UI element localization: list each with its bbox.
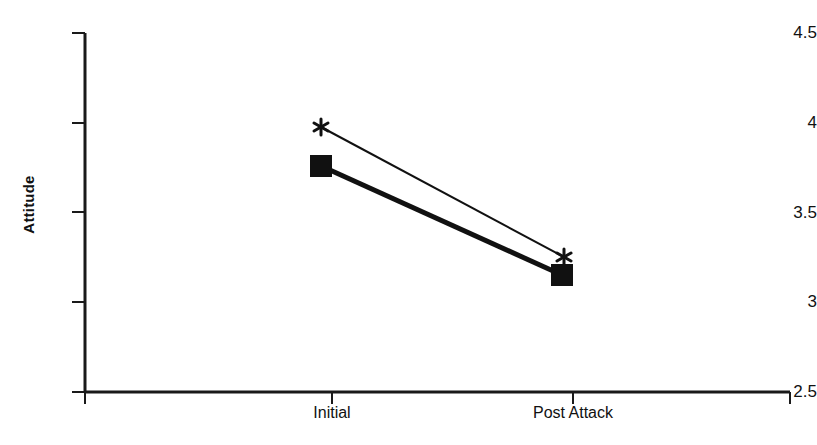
marker-square-post-attack (551, 264, 573, 286)
y-axis-title: Attitude (20, 155, 37, 255)
x-tick-label-initial: Initial (272, 404, 392, 421)
y-tick-label-4-5: 4.5 (771, 24, 817, 41)
y-tick-label-4: 4 (771, 114, 817, 131)
chart-container: Attitude 4.5 4 3.5 3 2.5 Initial Post At… (0, 0, 817, 445)
y-tick-label-3-5: 3.5 (771, 204, 817, 221)
marker-asterisk-post-attack (557, 249, 571, 265)
marker-square-initial (310, 155, 332, 177)
plot-area (0, 0, 817, 445)
series-square-line (321, 166, 562, 275)
y-tick-label-2-5: 2.5 (771, 383, 817, 400)
series-asterisk-line (321, 127, 564, 257)
y-tick-label-3: 3 (771, 293, 817, 310)
x-tick-label-post-attack: Post Attack (513, 404, 633, 421)
marker-asterisk-initial (314, 119, 328, 135)
